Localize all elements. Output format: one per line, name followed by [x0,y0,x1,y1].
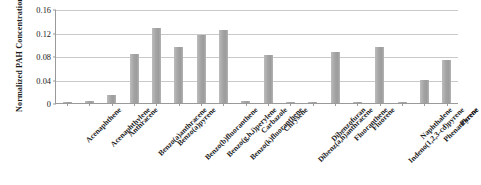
bar [442,60,451,103]
bar [152,28,161,103]
y-tick-label: 0.16 [36,6,51,15]
x-tick-label: Indeno(1,2,3-cd)pyrene [407,106,466,165]
bar [197,35,206,103]
bar [219,30,228,103]
bar-slot [235,10,257,103]
y-tick-label: 0.08 [36,53,51,62]
bar-slot [101,10,123,103]
bar-slot [436,10,458,103]
bar [375,47,384,103]
bar [264,55,273,103]
bar-slot [190,10,212,103]
y-tick-label: 0 [47,100,51,109]
bar-slot [212,10,234,103]
bar-slot [279,10,301,103]
bar-series [56,10,458,103]
bar [174,47,183,103]
bar-slot [257,10,279,103]
y-tick-label: 0.04 [36,76,51,85]
bar [331,52,340,103]
plot-area: 00.040.080.120.16 [55,10,458,104]
bar-slot [123,10,145,103]
x-axis-tick-labels: AcenaphtheneAcenaphthyleneAnthraceneBenz… [55,106,458,185]
bar-slot [346,10,368,103]
y-tick-label: 0.12 [36,29,51,38]
bar-slot [168,10,190,103]
bar-slot [324,10,346,103]
bar-slot [145,10,167,103]
bar-slot [56,10,78,103]
y-tick-mark [53,104,56,105]
bar [130,54,139,103]
bar [107,95,116,103]
bar [420,80,429,103]
bar-slot [413,10,435,103]
bar-slot [78,10,100,103]
bar-slot [369,10,391,103]
y-axis-title: Normalized PAH Concentration [15,0,24,120]
bar-slot [391,10,413,103]
bar-slot [302,10,324,103]
